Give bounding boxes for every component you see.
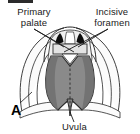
label-incisive-foramen-line2: foramen [94,17,130,28]
label-incisive-foramen: Incisive foramen [86,7,138,28]
nasal-septum [65,32,75,44]
panel-letter-a: A [11,103,21,117]
label-primary-palate: Primary palate [10,7,58,28]
label-incisive-foramen-line1: Incisive [96,6,128,17]
figure-panel-a: Primary palate Incisive foramen Uvula A [0,0,140,134]
label-primary-palate-line2: palate [21,17,47,28]
label-primary-palate-line1: Primary [17,6,50,17]
label-uvula: Uvula [62,122,106,133]
